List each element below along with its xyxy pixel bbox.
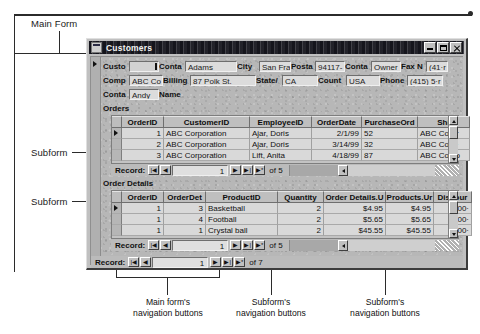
table-cell[interactable]: 2 bbox=[278, 225, 324, 236]
orders-nav-prev-button[interactable]: ◀ bbox=[160, 165, 171, 175]
column-header-products-ur[interactable]: Products.Ur bbox=[386, 191, 434, 203]
orders-nav-last-button[interactable]: ▶| bbox=[242, 165, 253, 175]
column-header-order-details-u[interactable]: Order Details.U bbox=[324, 191, 386, 203]
orders-subform-navigation-bar[interactable]: Record: |◀ ◀ 1 ▶ ▶| ▶* of 5 bbox=[111, 164, 459, 176]
field-input-phone[interactable]: (415) 5·r bbox=[407, 75, 443, 86]
table-row[interactable]: 13Basketball2$4.95$4.950.00· bbox=[112, 203, 458, 214]
field-input-comp[interactable]: ABC Co bbox=[129, 75, 163, 86]
column-header-orderdet[interactable]: OrderDet bbox=[164, 191, 206, 203]
column-header-productid[interactable]: ProductID bbox=[206, 191, 278, 203]
details-horizontal-scrollbar[interactable] bbox=[289, 240, 459, 251]
customers-form-window[interactable]: Customers CustoContaAdamsCitySan FraPost… bbox=[86, 38, 468, 270]
column-header-orderdate[interactable]: OrderDate bbox=[312, 116, 362, 128]
main-record-selector[interactable] bbox=[91, 57, 101, 265]
main-nav-next-button[interactable]: ▶ bbox=[210, 257, 221, 267]
window-titlebar[interactable]: Customers bbox=[89, 41, 464, 54]
table-row[interactable]: 11Crystal ball2$45.55$45.550.00· bbox=[112, 225, 458, 236]
field-input-fax-n[interactable]: (41·r bbox=[426, 61, 448, 72]
table-cell[interactable]: 32 bbox=[362, 139, 418, 150]
table-cell[interactable]: ABC Corp· bbox=[418, 139, 470, 150]
order-details-vertical-scrollbar[interactable] bbox=[448, 191, 458, 238]
main-nav-prev-button[interactable]: ◀ bbox=[140, 257, 151, 267]
field-input-count[interactable]: USA bbox=[346, 75, 380, 86]
table-cell[interactable]: 2/1/99 bbox=[312, 128, 362, 139]
table-cell[interactable]: ABC Corporation bbox=[164, 150, 250, 161]
field-input-billing[interactable]: 87 Polk St. bbox=[190, 75, 256, 86]
table-cell[interactable]: ABC Corporation bbox=[164, 139, 250, 150]
field-input-conta[interactable]: Adams bbox=[185, 61, 237, 72]
row-selector[interactable] bbox=[112, 150, 122, 161]
field-input-posta[interactable]: 94117- bbox=[315, 61, 345, 72]
table-cell[interactable]: ABC Corpr bbox=[418, 128, 470, 139]
table-cell[interactable]: $5.65 bbox=[386, 214, 434, 225]
orders-header-row[interactable]: OrderIDCustomerIDEmployeeIDOrderDatePurc… bbox=[112, 116, 458, 128]
hscroll-left-icon[interactable] bbox=[338, 165, 348, 176]
window-controls[interactable] bbox=[424, 42, 462, 53]
table-cell[interactable]: 1 bbox=[122, 214, 164, 225]
table-cell[interactable]: 4/18/99 bbox=[312, 150, 362, 161]
column-header-customerid[interactable]: CustomerID bbox=[164, 116, 250, 128]
scroll-up-icon[interactable] bbox=[449, 191, 458, 200]
table-cell[interactable]: Basketball bbox=[206, 203, 278, 214]
table-row[interactable]: 1ABC CorporationAjar, Doris2/1/9952ABC C… bbox=[112, 128, 458, 139]
select-all-corner[interactable] bbox=[112, 191, 122, 203]
main-nav-last-button[interactable]: ▶| bbox=[222, 257, 233, 267]
table-cell[interactable]: Crystal ball bbox=[206, 225, 278, 236]
main-nav-record-number[interactable]: 1 bbox=[152, 257, 208, 268]
field-input-conta[interactable]: Owner bbox=[371, 61, 401, 72]
table-cell[interactable]: 3 bbox=[164, 203, 206, 214]
table-cell[interactable]: $45.55 bbox=[386, 225, 434, 236]
current-record-arrow-icon[interactable] bbox=[112, 128, 122, 139]
orders-nav-next-button[interactable]: ▶ bbox=[230, 165, 241, 175]
details-nav-first-button[interactable]: |◀ bbox=[148, 240, 159, 250]
orders-nav-first-button[interactable]: |◀ bbox=[148, 165, 159, 175]
column-header-orderid[interactable]: OrderID bbox=[122, 191, 164, 203]
scroll-up-icon[interactable] bbox=[449, 116, 458, 125]
close-icon[interactable] bbox=[450, 42, 462, 53]
column-header-quantity[interactable]: Quantity bbox=[278, 191, 324, 203]
column-header-orderid[interactable]: OrderID bbox=[122, 116, 164, 128]
column-header-employeeid[interactable]: EmployeeID bbox=[250, 116, 312, 128]
maximize-button[interactable] bbox=[437, 42, 449, 53]
order-details-rows[interactable]: 13Basketball2$4.95$4.950.00·14Football2$… bbox=[112, 203, 458, 236]
order-details-subform-datasheet[interactable]: OrderIDOrderDetProductIDQuantityOrder De… bbox=[111, 190, 459, 239]
details-hscroll-thumb[interactable] bbox=[290, 240, 338, 251]
table-cell[interactable]: Lift, Anita bbox=[250, 150, 312, 161]
table-cell[interactable]: $4.95 bbox=[324, 203, 386, 214]
orders-vertical-scrollbar[interactable] bbox=[448, 116, 458, 163]
row-selector[interactable] bbox=[112, 225, 122, 236]
table-row[interactable]: 14Football2$5.65$5.650.00· bbox=[112, 214, 458, 225]
table-cell[interactable]: $45.55 bbox=[324, 225, 386, 236]
table-cell[interactable]: 87 bbox=[362, 150, 418, 161]
table-cell[interactable]: 4 bbox=[164, 214, 206, 225]
hscroll-left-icon[interactable] bbox=[338, 240, 348, 251]
field-input-conta[interactable]: Andy bbox=[129, 89, 159, 100]
orders-subform-datasheet[interactable]: OrderIDCustomerIDEmployeeIDOrderDatePurc… bbox=[111, 115, 459, 164]
table-cell[interactable]: 3 bbox=[122, 150, 164, 161]
orders-rows[interactable]: 1ABC CorporationAjar, Doris2/1/9952ABC C… bbox=[112, 128, 458, 161]
field-input-state-[interactable]: CA bbox=[282, 75, 318, 86]
orders-horizontal-scrollbar[interactable] bbox=[289, 165, 459, 176]
main-nav-new-button[interactable]: ▶* bbox=[234, 257, 245, 267]
details-nav-next-button[interactable]: ▶ bbox=[230, 240, 241, 250]
details-nav-record-number[interactable]: 1 bbox=[172, 240, 228, 251]
column-header-shi[interactable]: Shi bbox=[418, 116, 470, 128]
table-cell[interactable]: 1 bbox=[122, 203, 164, 214]
table-cell[interactable]: $4.95 bbox=[386, 203, 434, 214]
table-cell[interactable]: 1 bbox=[164, 225, 206, 236]
current-record-arrow-icon[interactable] bbox=[112, 203, 122, 214]
table-cell[interactable]: Ajar, Doris bbox=[250, 128, 312, 139]
table-cell[interactable]: 2 bbox=[122, 139, 164, 150]
field-input-custo[interactable] bbox=[129, 61, 159, 72]
row-selector[interactable] bbox=[112, 214, 122, 225]
main-form-navigation-bar[interactable]: Record: |◀ ◀ 1 ▶ ▶| ▶* of 7 bbox=[91, 256, 463, 268]
table-cell[interactable]: Ajar, Doris bbox=[250, 139, 312, 150]
orders-scroll-thumb[interactable] bbox=[449, 126, 458, 139]
table-row[interactable]: 3ABC CorporationLift, Anita4/18/9987ABC … bbox=[112, 150, 458, 161]
table-cell[interactable]: ABC Corporation bbox=[164, 128, 250, 139]
scroll-down-icon[interactable] bbox=[449, 229, 458, 238]
order-details-subform-navigation-bar[interactable]: Record: |◀ ◀ 1 ▶ ▶| ▶* of 5 bbox=[111, 239, 459, 251]
table-cell[interactable]: Football bbox=[206, 214, 278, 225]
main-nav-first-button[interactable]: |◀ bbox=[128, 257, 139, 267]
minimize-button[interactable] bbox=[424, 42, 436, 53]
